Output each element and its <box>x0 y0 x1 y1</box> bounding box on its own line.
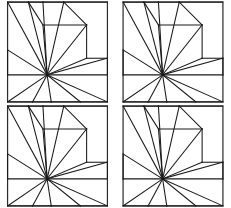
triangulation-svg <box>115 0 231 104</box>
square-border <box>8 106 108 206</box>
panel-grid <box>0 0 231 208</box>
triangulation-svg <box>115 104 231 208</box>
panel-bottom-right <box>115 104 231 208</box>
triangulation-svg <box>0 0 115 104</box>
panel-bottom-left <box>0 104 115 208</box>
panel-top-right <box>115 0 231 104</box>
square-border <box>8 2 108 102</box>
triangulation-svg <box>0 104 115 208</box>
figure-root <box>0 0 231 208</box>
square-border <box>123 106 223 206</box>
square-border <box>123 2 223 102</box>
panel-top-left <box>0 0 115 104</box>
